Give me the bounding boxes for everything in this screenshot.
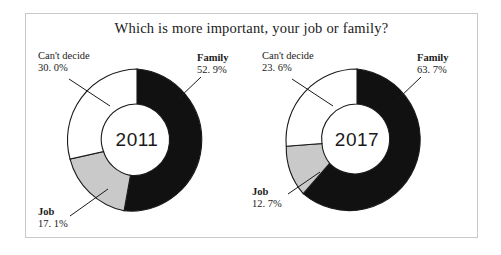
leader-line-family-2011 (178, 77, 201, 99)
center-year-2011: 2011 (116, 129, 159, 150)
figure-root: Which is more important, your job or fam… (0, 0, 501, 255)
label-family-2011: Family 52. 9% (197, 52, 229, 77)
label-cant-decide-2017: Can't decide 23. 6% (262, 50, 314, 75)
donut-chart-2017: 2017 (286, 69, 421, 211)
label-family-2011-value: 52. 9% (197, 64, 229, 76)
slice-job-2011[interactable] (70, 152, 130, 211)
label-cant-decide-2017-value: 23. 6% (262, 62, 314, 74)
donut-chart-2011: 2011 (67, 69, 201, 216)
label-job-2011: Job 17. 1% (38, 206, 68, 231)
label-family-2011-name: Family (197, 52, 229, 64)
label-cant-decide-2011-value: 30. 0% (38, 62, 90, 74)
label-job-2011-name: Job (38, 206, 68, 218)
center-year-2017: 2017 (335, 129, 379, 150)
donut-chart-layer: 2011 2017 (0, 0, 501, 255)
label-job-2011-value: 17. 1% (38, 218, 68, 230)
label-cant-decide-2011: Can't decide 30. 0% (38, 50, 90, 75)
leader-line-family-2017 (398, 77, 421, 99)
label-cant-decide-2011-name: Can't decide (38, 50, 90, 62)
label-job-2017-name: Job (252, 186, 282, 198)
label-family-2017-value: 63. 7% (417, 64, 449, 76)
label-job-2017: Job 12. 7% (252, 186, 282, 211)
label-family-2017: Family 63. 7% (417, 52, 449, 77)
label-family-2017-name: Family (417, 52, 449, 64)
label-cant-decide-2017-name: Can't decide (262, 50, 314, 62)
label-job-2017-value: 12. 7% (252, 198, 282, 210)
